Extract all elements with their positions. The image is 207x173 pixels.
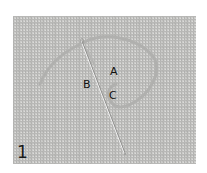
embroidery-photo: A B C 1 (13, 16, 196, 164)
fabric-canvas-illustration (13, 16, 196, 164)
point-label-b: B (83, 79, 91, 90)
step-number: 1 (17, 144, 28, 161)
point-label-c: C (109, 90, 117, 101)
point-label-a: A (110, 66, 118, 77)
